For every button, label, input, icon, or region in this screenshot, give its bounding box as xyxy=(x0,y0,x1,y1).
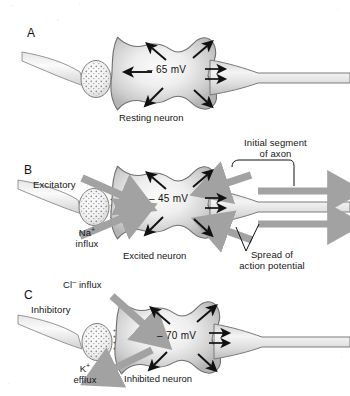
label-inhibitory: Inhibitory xyxy=(31,305,71,316)
panel-letter-c: C xyxy=(24,288,33,302)
label-spread: Spread ofaction potential xyxy=(217,250,327,271)
voltage-label-c: – 70 mV xyxy=(157,330,196,341)
initial-segment-line2: of axon xyxy=(260,148,292,159)
label-excitatory: Excitatory xyxy=(33,180,76,191)
k-efflux-word: efflux xyxy=(73,374,96,385)
na-ion: Na xyxy=(79,227,91,238)
caption-c: Inhibited neuron xyxy=(124,373,192,384)
k-charge: + xyxy=(86,362,90,369)
label-na-influx: Na+influx xyxy=(68,228,106,249)
cl-ion: Cl xyxy=(63,279,72,290)
cl-influx-word: influx xyxy=(76,279,102,290)
voltage-label-b: – 45 mV xyxy=(149,193,188,204)
na-influx-word: influx xyxy=(76,238,99,249)
label-cl-influx: Cl– influx xyxy=(63,280,102,291)
initial-segment-line1: Initial segment xyxy=(244,137,307,148)
caption-a: Resting neuron xyxy=(119,112,183,123)
caption-b: Excited neuron xyxy=(123,250,186,261)
spread-line2: action potential xyxy=(239,260,305,271)
label-initial-segment: Initial segmentof axon xyxy=(223,138,328,159)
na-charge: + xyxy=(91,226,95,233)
panel-letter-b: B xyxy=(24,163,32,177)
voltage-label-a: – 65 mV xyxy=(147,64,186,75)
spread-line1: Spread of xyxy=(251,249,293,260)
panel-letter-a: A xyxy=(27,26,35,40)
label-k-efflux: K+efflux xyxy=(67,364,103,385)
